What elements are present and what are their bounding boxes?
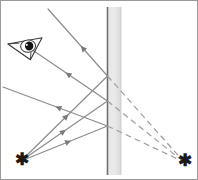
reflected-ray-middle-arrowhead	[65, 72, 72, 78]
observer-eye	[8, 31, 48, 65]
figure-frame: ✱ ✱	[0, 0, 198, 180]
mirror-body	[108, 7, 122, 175]
ray-diagram-canvas	[1, 1, 198, 180]
object-star-glyph: ✱	[15, 151, 29, 168]
incident-ray-middle-arrowhead	[59, 130, 66, 136]
image-star-glyph: ✱	[178, 152, 192, 169]
